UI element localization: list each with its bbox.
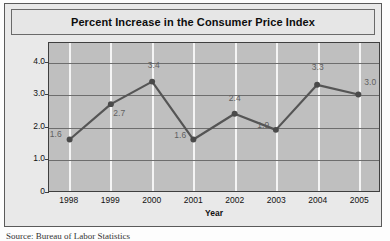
plot-area [48, 42, 380, 192]
x-axis-tick-label: 1998 [49, 195, 89, 205]
data-point-marker [108, 101, 114, 107]
y-axis-tick-label: 4.0 [19, 56, 45, 66]
chart-figure: Percent Increase in the Consumer Price I… [4, 3, 382, 227]
data-point-label: 2.7 [113, 108, 125, 118]
data-point-label: 3.0 [364, 77, 376, 87]
x-axis-tick-label: 2001 [173, 195, 213, 205]
data-point-marker [190, 137, 196, 143]
x-axis-tick-label: 1999 [90, 195, 130, 205]
y-axis-tick-label: 0 [19, 186, 45, 196]
data-point-marker [314, 82, 320, 88]
source-note: Source: Bureau of Labor Statistics [6, 231, 130, 241]
data-point-marker [355, 92, 361, 98]
data-point-label: 1.6 [50, 129, 62, 139]
data-point-label: 1.9 [257, 120, 269, 130]
data-point-marker [149, 79, 155, 85]
data-point-marker [232, 111, 238, 117]
chart-title-bar: Percent Increase in the Consumer Price I… [11, 9, 375, 35]
data-point-label: 3.4 [148, 60, 160, 70]
data-point-label: 3.3 [312, 62, 324, 72]
y-axis-tick-mark [45, 192, 49, 193]
y-axis-tick-label: 2.0 [19, 121, 45, 131]
x-axis-tick-label: 2005 [339, 195, 379, 205]
x-axis-label: Year [48, 208, 380, 218]
data-point-label: 1.6 [174, 130, 186, 140]
x-axis-ticks: 19981999200020012002200320042005 [48, 195, 380, 207]
x-axis-tick-label: 2002 [215, 195, 255, 205]
y-axis-ticks: 01.02.03.04.0 [14, 42, 45, 192]
x-axis-tick-label: 2004 [298, 195, 338, 205]
cpi-line-series [49, 43, 379, 191]
page-title: Percent Increase in the Consumer Price I… [71, 16, 315, 28]
y-axis-tick-label: 1.0 [19, 153, 45, 163]
y-axis-tick-label: 3.0 [19, 88, 45, 98]
data-point-marker [67, 137, 73, 143]
x-axis-tick-label: 2000 [132, 195, 172, 205]
data-point-marker [273, 127, 279, 133]
x-axis-tick-label: 2003 [256, 195, 296, 205]
data-point-label: 2.4 [229, 93, 241, 103]
